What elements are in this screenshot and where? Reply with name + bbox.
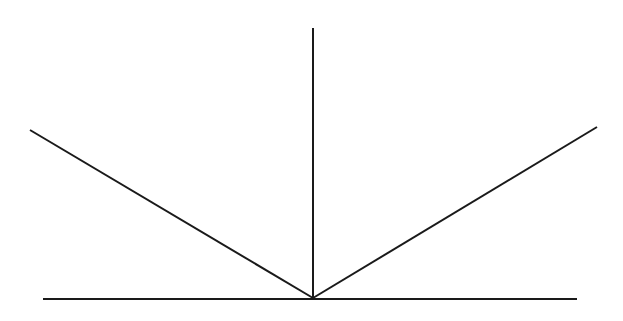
reflection-diagram [0, 0, 623, 321]
diagram-background [0, 0, 623, 321]
